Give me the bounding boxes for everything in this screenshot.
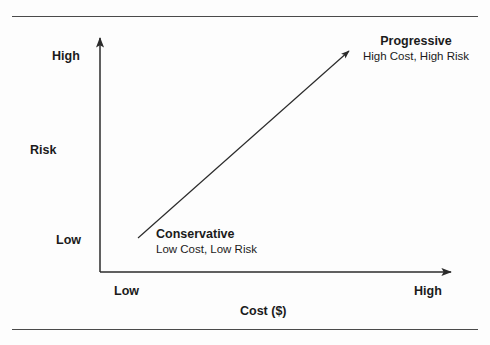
x-axis-high-label: High [414,285,442,299]
trend-arrow [138,51,349,238]
y-axis-low-label: Low [56,234,81,248]
y-axis-title: Risk [30,144,56,158]
x-axis-title: Cost ($) [240,305,287,319]
annotation-progressive-title: Progressive [357,34,475,48]
annotation-progressive-subtitle: High Cost, High Risk [357,50,475,62]
annotation-conservative-subtitle: Low Cost, Low Risk [156,243,257,255]
annotation-conservative: Conservative Low Cost, Low Risk [156,227,257,255]
bottom-divider-rule [12,329,478,330]
figure-canvas: High Risk Low Low High Cost ($) Conserva… [0,0,490,345]
y-axis-high-label: High [52,50,80,64]
annotation-progressive: Progressive High Cost, High Risk [357,34,475,62]
x-axis-low-label: Low [114,285,139,299]
annotation-conservative-title: Conservative [156,227,257,241]
